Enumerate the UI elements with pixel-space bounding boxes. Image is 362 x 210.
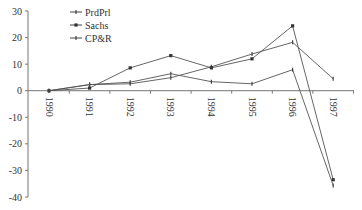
- legend: PrdPrlSachsCP&R: [70, 7, 112, 44]
- data-point-square: [129, 66, 132, 69]
- y-axis: 3020100-10-20-30-40: [9, 6, 28, 203]
- x-tick-label: 1993: [165, 97, 176, 117]
- line-chart: 3020100-10-20-30-40 19901991199219931994…: [0, 0, 362, 210]
- x-axis: 19901991199219931994199519961997: [28, 91, 354, 117]
- y-tick-label: 30: [12, 6, 22, 17]
- y-tick-label: 10: [12, 59, 22, 70]
- legend-label: CP&R: [85, 33, 112, 44]
- series-cp-r: [49, 68, 333, 188]
- series-line: [49, 42, 333, 90]
- x-tick-label: 1994: [206, 97, 217, 117]
- y-tick-label: 0: [17, 85, 22, 96]
- legend-square-marker-icon: [74, 23, 77, 26]
- x-tick-label: 1991: [84, 97, 95, 117]
- x-tick-label: 1997: [328, 97, 339, 117]
- x-tick-label: 1996: [287, 97, 298, 117]
- x-tick-label: 1992: [125, 97, 136, 117]
- y-tick-label: -20: [9, 138, 22, 149]
- x-tick-label: 1995: [247, 97, 258, 117]
- data-point-square: [291, 24, 294, 27]
- legend-item: PrdPrl: [70, 7, 111, 18]
- data-point-square: [250, 57, 253, 60]
- x-tick-label: 1990: [44, 97, 55, 117]
- y-tick-label: -40: [9, 192, 22, 203]
- data-point-square: [88, 86, 91, 89]
- legend-label: PrdPrl: [85, 7, 111, 18]
- y-tick-label: -10: [9, 112, 22, 123]
- y-tick-label: -30: [9, 165, 22, 176]
- legend-label: Sachs: [85, 20, 108, 31]
- data-point-square: [210, 66, 213, 69]
- data-point-square: [169, 54, 172, 57]
- legend-item: Sachs: [70, 20, 108, 31]
- y-tick-label: 20: [12, 32, 22, 43]
- data-point-square: [332, 178, 335, 181]
- legend-item: CP&R: [70, 33, 112, 44]
